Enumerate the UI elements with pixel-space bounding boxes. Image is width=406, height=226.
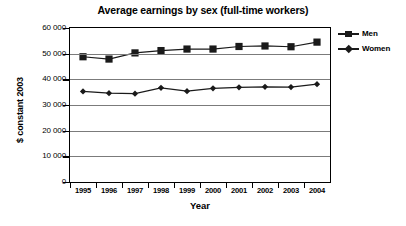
- x-axis-title: Year: [69, 200, 331, 211]
- series-line-men: [83, 42, 317, 59]
- data-point-men-2002: [261, 42, 268, 49]
- gridline: [70, 131, 330, 132]
- legend-marker-shape: [344, 45, 352, 53]
- data-point-women-1996: [106, 90, 112, 96]
- x-tick-mark: [304, 183, 305, 188]
- y-tick-label: 10 000: [18, 151, 66, 160]
- data-point-women-1995: [80, 88, 86, 94]
- x-tick-mark: [96, 183, 97, 188]
- y-tick-label: 40 000: [18, 74, 66, 83]
- chart-legend: MenWomen: [338, 26, 406, 56]
- y-tick-label: 0: [18, 177, 66, 186]
- data-point-men-2003: [287, 43, 294, 50]
- data-point-men-1999: [183, 45, 190, 52]
- gridline: [70, 105, 330, 106]
- y-tick-label: 20 000: [18, 126, 66, 135]
- plot-area: [69, 27, 331, 183]
- data-point-women-2004: [314, 81, 320, 87]
- data-point-men-2000: [209, 45, 216, 52]
- x-tick-mark: [122, 183, 123, 188]
- gridline: [70, 79, 330, 80]
- data-point-women-1999: [184, 88, 190, 94]
- x-tick-mark: [200, 183, 201, 188]
- legend-label: Men: [359, 29, 378, 38]
- data-point-women-1998: [158, 85, 164, 91]
- data-point-women-2000: [210, 85, 216, 91]
- data-point-men-1996: [105, 55, 112, 62]
- x-tick-mark: [174, 183, 175, 188]
- legend-item-men[interactable]: Men: [338, 26, 406, 41]
- x-tick-mark: [148, 183, 149, 188]
- data-point-women-2001: [236, 84, 242, 90]
- chart-figure: Average earnings by sex (full-time worke…: [0, 0, 406, 226]
- data-point-women-2002: [262, 84, 268, 90]
- y-tick-label: 50 000: [18, 49, 66, 58]
- x-tick-mark: [278, 183, 279, 188]
- x-tick-mark: [252, 183, 253, 188]
- chart-title: Average earnings by sex (full-time worke…: [0, 4, 406, 16]
- y-tick-label: 60 000: [18, 23, 66, 32]
- legend-label: Women: [359, 44, 390, 53]
- data-point-men-2004: [313, 39, 320, 46]
- series-line-women: [83, 84, 317, 94]
- data-point-men-2001: [235, 43, 242, 50]
- data-point-women-1997: [132, 91, 138, 97]
- data-point-women-2003: [288, 84, 294, 90]
- gridline: [70, 54, 330, 55]
- x-tick-mark: [70, 183, 71, 188]
- legend-marker-women-icon: [338, 43, 359, 54]
- y-tick-label: 30 000: [18, 100, 66, 109]
- x-tick-mark: [226, 183, 227, 188]
- legend-marker-men-icon: [338, 28, 359, 39]
- legend-marker-shape: [345, 31, 352, 38]
- gridline: [70, 156, 330, 157]
- legend-item-women[interactable]: Women: [338, 41, 406, 56]
